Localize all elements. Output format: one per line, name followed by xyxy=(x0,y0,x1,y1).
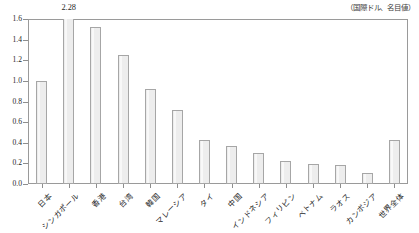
y-axis-tick-label: 1.6 xyxy=(1,14,22,23)
x-axis-tick-mark xyxy=(177,184,178,188)
x-axis-tick-mark xyxy=(204,184,205,188)
x-axis-tick-mark xyxy=(96,184,97,188)
peak-value-label: 2.28 xyxy=(49,3,89,12)
y-axis-tick-label: 0.0 xyxy=(1,179,22,188)
x-axis-tick-mark xyxy=(259,184,260,188)
y-axis-tick-label: 0.8 xyxy=(1,97,22,106)
x-axis-tick-mark xyxy=(313,184,314,188)
x-axis-tick-mark xyxy=(42,184,43,188)
x-axis-tick-mark xyxy=(394,184,395,188)
x-axis-tick-mark xyxy=(232,184,233,188)
y-axis-tick-label: 1.2 xyxy=(1,55,22,64)
x-axis-tick-mark xyxy=(123,184,124,188)
x-axis-tick-mark xyxy=(150,184,151,188)
y-axis-tick-label: 0.6 xyxy=(1,117,22,126)
x-axis-tick-mark xyxy=(340,184,341,188)
bar-chart: （国際ドル、名目値） 2.28 0.00.20.40.60.81.01.21.4… xyxy=(0,0,419,233)
x-axis-tick-mark xyxy=(286,184,287,188)
x-axis-tick-mark xyxy=(367,184,368,188)
y-axis-tick-mark xyxy=(23,184,28,185)
y-axis-tick-label: 1.0 xyxy=(1,76,22,85)
x-axis-tick-mark xyxy=(69,184,70,188)
unit-note: （国際ドル、名目値） xyxy=(346,1,415,12)
y-axis-tick-label: 0.2 xyxy=(1,158,22,167)
y-axis-tick-label: 1.4 xyxy=(1,35,22,44)
plot-area xyxy=(28,19,408,184)
y-axis-tick-label: 0.4 xyxy=(1,138,22,147)
